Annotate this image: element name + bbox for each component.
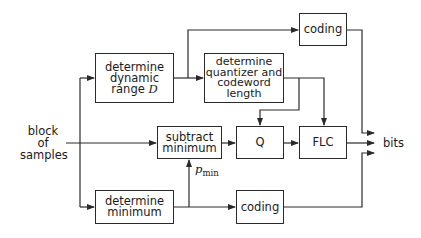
determine-quantizer-block: determine quantizer and codeword length xyxy=(204,53,284,103)
dynamic-range-symbol: D xyxy=(148,82,157,96)
p-min-label: pmin xyxy=(195,163,219,179)
output-label: bits xyxy=(383,137,404,149)
block-text: length xyxy=(206,89,282,100)
block-text: Q xyxy=(255,137,264,148)
block-text: minimum xyxy=(162,143,217,154)
flc-block: FLC xyxy=(299,126,347,159)
subtract-minimum-block: subtract minimum xyxy=(157,126,222,159)
block-text: coding xyxy=(241,202,279,213)
connection-wires xyxy=(0,0,421,238)
block-text: minimum xyxy=(105,207,164,218)
block-text: FLC xyxy=(312,137,333,148)
coding-bottom-block: coding xyxy=(236,190,284,224)
block-text: range xyxy=(111,82,144,96)
p-subscript: min xyxy=(202,168,218,178)
determine-dynamic-range-block: determine dynamic range D xyxy=(95,53,174,103)
determine-minimum-block: determine minimum xyxy=(95,190,174,224)
input-label: block of samples xyxy=(20,125,66,161)
input-label-line: samples xyxy=(20,149,66,161)
quantizer-q-block: Q xyxy=(236,126,284,159)
coding-top-block: coding xyxy=(299,13,347,46)
block-text: coding xyxy=(304,24,342,35)
